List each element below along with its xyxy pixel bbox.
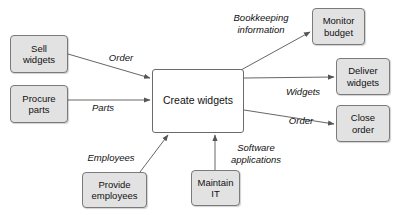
edge-label-order-in: Order: [104, 52, 138, 64]
edge-label-bookkeeping-out: Bookkeeping information: [226, 12, 296, 35]
edge-employees-in: [140, 135, 168, 172]
edge-label-software-in: Software applications: [225, 142, 287, 165]
node-label: Close order: [351, 112, 375, 135]
edge-label-widgets-out: Widgets: [282, 86, 324, 98]
node-sell-widgets[interactable]: Sell widgets: [10, 35, 68, 73]
edge-label-order-out: Order: [284, 115, 318, 127]
node-deliver-widgets[interactable]: Deliver widgets: [336, 58, 390, 95]
node-maintain-it[interactable]: Maintain IT: [191, 170, 240, 206]
edge-widgets-out: [244, 77, 334, 78]
node-provide-employees[interactable]: Provide employees: [82, 172, 147, 208]
node-procure-parts[interactable]: Procure parts: [10, 85, 68, 123]
edge-label-employees-in: Employees: [82, 152, 140, 164]
node-label: Provide employees: [92, 179, 138, 202]
diagram-canvas: Sell widgetsProcure partsCreate widgetsM…: [0, 0, 399, 215]
edge-label-parts-in: Parts: [88, 102, 118, 114]
node-close-order[interactable]: Close order: [336, 105, 390, 142]
node-label: Monitor budget: [323, 15, 355, 38]
node-label: Deliver widgets: [347, 65, 379, 88]
node-label: Procure parts: [22, 93, 55, 116]
edge-bookkeeping-out: [241, 32, 310, 70]
node-label: Create widgets: [163, 95, 233, 107]
node-label: Maintain IT: [198, 177, 234, 200]
node-label: Sell widgets: [23, 43, 55, 66]
node-monitor-budget[interactable]: Monitor budget: [312, 8, 365, 45]
node-create-widgets[interactable]: Create widgets: [152, 69, 244, 133]
